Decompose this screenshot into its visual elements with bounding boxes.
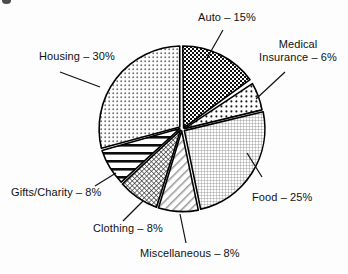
leader-line-clothing [123,201,143,221]
leader-line-gifts-charity [95,173,116,186]
pie-label-medical-insurance: Medical Insurance – 6% [252,38,344,64]
pie-label-miscellaneous: Miscellaneous – 8% [140,247,240,260]
leader-line-housing [60,72,100,87]
leader-line-miscellaneous [180,214,186,243]
pie-label-clothing: Clothing – 8% [93,222,163,235]
pie-slices [99,46,265,212]
pie-label-housing: Housing – 30% [39,50,115,63]
pie-label-food: Food – 25% [252,191,312,204]
pie-label-auto: Auto – 15% [198,11,256,24]
pie-chart-figure: Auto – 15% Medical Insurance – 6% Food –… [0,0,348,274]
leader-line-medical-insurance [256,72,285,99]
pie-label-medical-insurance-line2: Insurance – 6% [259,51,337,63]
pie-label-gifts-charity: Gifts/Charity – 8% [11,186,101,199]
pie-label-medical-insurance-line1: Medical [279,38,318,50]
